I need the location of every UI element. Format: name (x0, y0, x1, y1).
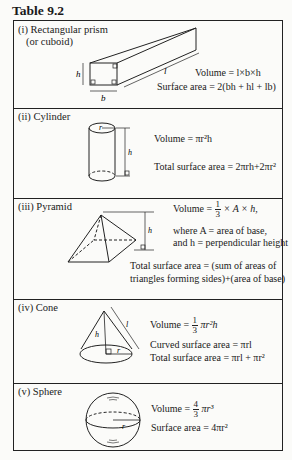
volume-formula: Volume = 13 πr²h (150, 316, 217, 335)
surface-line-1: Total surface area = (sum of areas of (130, 259, 276, 272)
row-cylinder: (ii) Cylinder r h Volume = πr²h Total su… (14, 108, 282, 199)
row-rectangular-prism: (i) Rectangular prism (or cuboid) h b l … (14, 21, 282, 109)
cuboid-diagram: h b l (14, 21, 284, 108)
volume-formula: Volume = l×b×h (195, 66, 261, 79)
dim-r: r (122, 422, 126, 431)
row-sphere: (v) Sphere r Volume = 43 πr³ Surface are… (14, 383, 282, 452)
fraction-denominator: 3 (192, 326, 199, 335)
fraction-denominator: 3 (215, 210, 222, 219)
fraction: 13 (215, 200, 222, 219)
volume-formula: Volume = πr²h (154, 132, 212, 145)
fraction: 43 (193, 400, 200, 419)
sphere-diagram: r (14, 383, 284, 452)
row-pyramid: (iii) Pyramid h Volume = 13 × A × h, (14, 198, 282, 300)
surface-formula: Surface area = 4πr² (151, 421, 228, 434)
surface-formula: Total surface area = 2πrh+2πr² (154, 160, 276, 173)
dim-b: b (101, 93, 106, 103)
dim-l: l (126, 320, 129, 329)
table-title: Table 9.2 (12, 3, 64, 19)
volume-suffix: πr³ (202, 403, 214, 414)
volume-prefix: Volume = (173, 203, 212, 214)
fraction-denominator: 3 (193, 410, 200, 419)
row-cone: (iv) Cone h l r Volume = 13 πr²h Curved … (14, 299, 282, 384)
fraction: 13 (192, 316, 199, 335)
cylinder-diagram: r h (14, 108, 284, 198)
volume-formula: Volume = 13 × A × h, (173, 200, 258, 219)
surface-line-2: triangles forming sides)+(area of base) (130, 272, 285, 285)
total-surface-formula: Total surface area = πrl + πr² (150, 351, 265, 364)
volume-formula: Volume = 43 πr³ (151, 400, 213, 419)
curved-surface-formula: Curved surface area = πrl (150, 338, 252, 351)
formula-table: (i) Rectangular prism (or cuboid) h b l … (13, 20, 283, 451)
surface-formula: Surface area = 2(bh + hl + lb) (157, 80, 276, 93)
where-line-2: and h = perpendicular height (173, 236, 288, 249)
dim-h: h (148, 226, 152, 235)
dim-h: h (76, 69, 81, 79)
dim-h: h (128, 148, 132, 157)
volume-suffix: × A × h, (224, 203, 258, 214)
dim-r: r (99, 123, 103, 132)
volume-prefix: Volume = (151, 403, 190, 414)
volume-prefix: Volume = (150, 319, 189, 330)
volume-suffix: πr²h (201, 319, 218, 330)
dim-h: h (95, 330, 99, 339)
